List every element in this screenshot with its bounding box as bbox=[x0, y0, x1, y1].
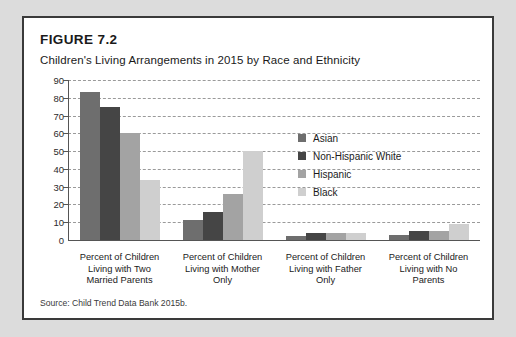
x-axis-category-label: Percent of ChildrenLiving with MotherOnl… bbox=[171, 252, 274, 287]
x-axis-line bbox=[68, 240, 480, 241]
legend-item-asian[interactable]: Asian bbox=[298, 130, 458, 146]
y-tick-label: 0 bbox=[40, 235, 64, 246]
legend-label: Asian bbox=[313, 133, 338, 144]
bar bbox=[243, 151, 263, 240]
category-label-line: Only bbox=[171, 275, 274, 287]
y-tick-label: 90 bbox=[40, 75, 64, 86]
category-label-line: Married Parents bbox=[68, 275, 171, 287]
category-label-line: Parents bbox=[377, 275, 480, 287]
bar bbox=[140, 180, 160, 240]
bar bbox=[183, 220, 203, 240]
bar bbox=[409, 231, 429, 240]
category-label-line: Percent of Children bbox=[171, 252, 274, 264]
category-label-line: Living with No bbox=[377, 264, 480, 276]
category-label-line: Living with Two bbox=[68, 264, 171, 276]
legend-label: Non-Hispanic White bbox=[313, 151, 401, 162]
y-tick-label: 20 bbox=[40, 199, 64, 210]
y-tick-label: 40 bbox=[40, 163, 64, 174]
figure-title: Children's Living Arrangements in 2015 b… bbox=[40, 54, 360, 66]
source-note: Source: Child Trend Data Bank 2015b. bbox=[40, 298, 187, 308]
y-tick-label: 50 bbox=[40, 146, 64, 157]
bar bbox=[449, 224, 469, 240]
y-tick-label: 10 bbox=[40, 217, 64, 228]
category-label-line: Percent of Children bbox=[377, 252, 480, 264]
category-label-line: Living with Mother bbox=[171, 264, 274, 276]
y-axis-tick-labels: 0102030405060708090 bbox=[40, 80, 64, 240]
legend-label: Black bbox=[313, 187, 337, 198]
legend-item-black[interactable]: Black bbox=[298, 184, 458, 200]
x-axis-category-label: Percent of ChildrenLiving with TwoMarrie… bbox=[68, 252, 171, 287]
bar bbox=[326, 233, 346, 240]
chart-plot-area: 0102030405060708090 AsianNon-Hispanic Wh… bbox=[40, 80, 480, 250]
legend-swatch-icon bbox=[298, 170, 306, 178]
y-tick-label: 60 bbox=[40, 128, 64, 139]
legend-swatch-icon bbox=[298, 188, 306, 196]
bar bbox=[100, 107, 120, 240]
legend-swatch-icon bbox=[298, 134, 306, 142]
y-tick-label: 80 bbox=[40, 92, 64, 103]
bar-group bbox=[171, 80, 274, 240]
category-label-line: Percent of Children bbox=[68, 252, 171, 264]
bar bbox=[223, 194, 243, 240]
x-axis-category-labels: Percent of ChildrenLiving with TwoMarrie… bbox=[68, 252, 480, 294]
x-axis-category-label: Percent of ChildrenLiving with NoParents bbox=[377, 252, 480, 287]
bar bbox=[80, 92, 100, 240]
category-label-line: Only bbox=[274, 275, 377, 287]
figure-number: FIGURE 7.2 bbox=[40, 32, 118, 47]
chart-legend: AsianNon-Hispanic WhiteHispanicBlack bbox=[298, 130, 458, 202]
bar bbox=[346, 233, 366, 240]
bar bbox=[306, 233, 326, 240]
figure-page: FIGURE 7.2 Children's Living Arrangement… bbox=[0, 0, 516, 337]
bar-group bbox=[68, 80, 171, 240]
category-label-line: Percent of Children bbox=[274, 252, 377, 264]
figure-card: FIGURE 7.2 Children's Living Arrangement… bbox=[22, 16, 494, 320]
legend-swatch-icon bbox=[298, 152, 306, 160]
legend-item-non-hispanic-white[interactable]: Non-Hispanic White bbox=[298, 148, 458, 164]
category-label-line: Living with Father bbox=[274, 264, 377, 276]
x-axis-category-label: Percent of ChildrenLiving with FatherOnl… bbox=[274, 252, 377, 287]
y-tick-label: 30 bbox=[40, 181, 64, 192]
bar bbox=[429, 231, 449, 240]
y-tick-label: 70 bbox=[40, 110, 64, 121]
bar bbox=[203, 212, 223, 240]
legend-label: Hispanic bbox=[313, 169, 351, 180]
legend-item-hispanic[interactable]: Hispanic bbox=[298, 166, 458, 182]
bar bbox=[120, 133, 140, 240]
